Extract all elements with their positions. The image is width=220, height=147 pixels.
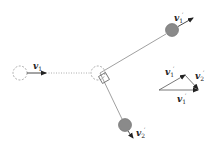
label-sup: ′ (182, 11, 183, 18)
collision-ball-outline (91, 66, 105, 80)
label-sub: 1 (182, 98, 186, 105)
ball-2 (119, 119, 132, 132)
label-sub: 1 (38, 65, 42, 72)
label-triangle-v1-final: v1′ (165, 66, 174, 78)
v2-final-arrow (128, 131, 133, 138)
label-sub: 2 (141, 132, 145, 139)
label-sub: 1 (179, 17, 183, 24)
ball2-path (100, 73, 122, 119)
label-v1-final: v1′ (174, 12, 183, 24)
label-v1-initial: v1 (33, 62, 42, 72)
label-v2-final: v2′ (136, 127, 145, 139)
label-triangle-base: v1′ (177, 93, 186, 105)
initial-ball-outline (13, 66, 27, 80)
label-sub: 1 (170, 71, 174, 78)
label-sup: ′ (144, 126, 145, 133)
label-triangle-v2-final: v2′ (195, 70, 204, 82)
label-sub: 2 (200, 75, 204, 82)
ball-1 (166, 24, 179, 37)
ball1-path (100, 34, 166, 73)
collision-diagram: v1 v1′ v2′ v1′ v2′ v1′ (0, 0, 220, 147)
label-sup: ′ (203, 69, 204, 76)
diagram-canvas (0, 0, 220, 147)
label-sup: ′ (185, 92, 186, 99)
label-sup: ′ (173, 65, 174, 72)
